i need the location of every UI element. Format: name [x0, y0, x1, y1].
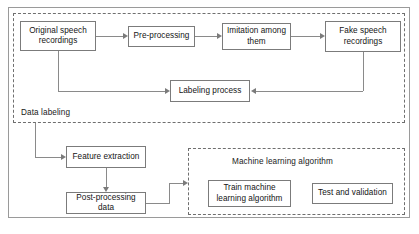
- edge-original-to-labeling-horizontal: [58, 91, 165, 92]
- node-feature-extraction[interactable]: Feature extraction: [66, 146, 146, 168]
- edge-original-to-preprocessing-line: [96, 36, 123, 37]
- edge-fake-to-labeling-vertical: [363, 52, 364, 91]
- node-pre-processing[interactable]: Pre-processing: [128, 26, 195, 47]
- edge-labeling-to-feature-horizontal: [35, 157, 61, 158]
- group-data-labeling-caption: Data labeling: [21, 108, 70, 117]
- edge-labeling-to-feature-vertical: [35, 123, 36, 157]
- edge-fake-to-labeling-horizontal: [256, 91, 363, 92]
- node-labeling-process[interactable]: Labeling process: [170, 80, 250, 102]
- node-train-machine-learning-algorithm[interactable]: Train machine learning algorithm: [208, 180, 291, 207]
- diagram-canvas: Data labeling Machine learning algorithm…: [0, 0, 419, 234]
- node-post-processing-data[interactable]: Post-processing data: [66, 192, 146, 214]
- edge-original-to-labeling-vertical: [58, 51, 59, 91]
- node-original-speech-recordings[interactable]: Original speech recordings: [20, 21, 96, 51]
- edge-postprocessing-to-ml-vertical: [169, 183, 170, 204]
- node-fake-speech-recordings[interactable]: Fake speech recordings: [325, 21, 401, 52]
- group-machine-learning-caption: Machine learning algorithm: [232, 157, 333, 166]
- node-test-and-validation[interactable]: Test and validation: [312, 183, 393, 204]
- edge-postprocessing-to-ml-horizontal-lower: [146, 203, 170, 204]
- edge-preprocessing-to-imitation-line: [195, 36, 217, 37]
- edge-feature-to-postprocessing-line: [106, 168, 107, 187]
- edge-postprocessing-to-ml-arrowhead: [183, 180, 188, 186]
- edge-postprocessing-to-ml-horizontal-upper: [169, 183, 183, 184]
- edge-fake-to-labeling-arrowhead: [251, 88, 256, 94]
- edge-imitation-to-fake-line: [291, 36, 320, 37]
- node-imitation-among-them[interactable]: Imitation among them: [222, 23, 291, 50]
